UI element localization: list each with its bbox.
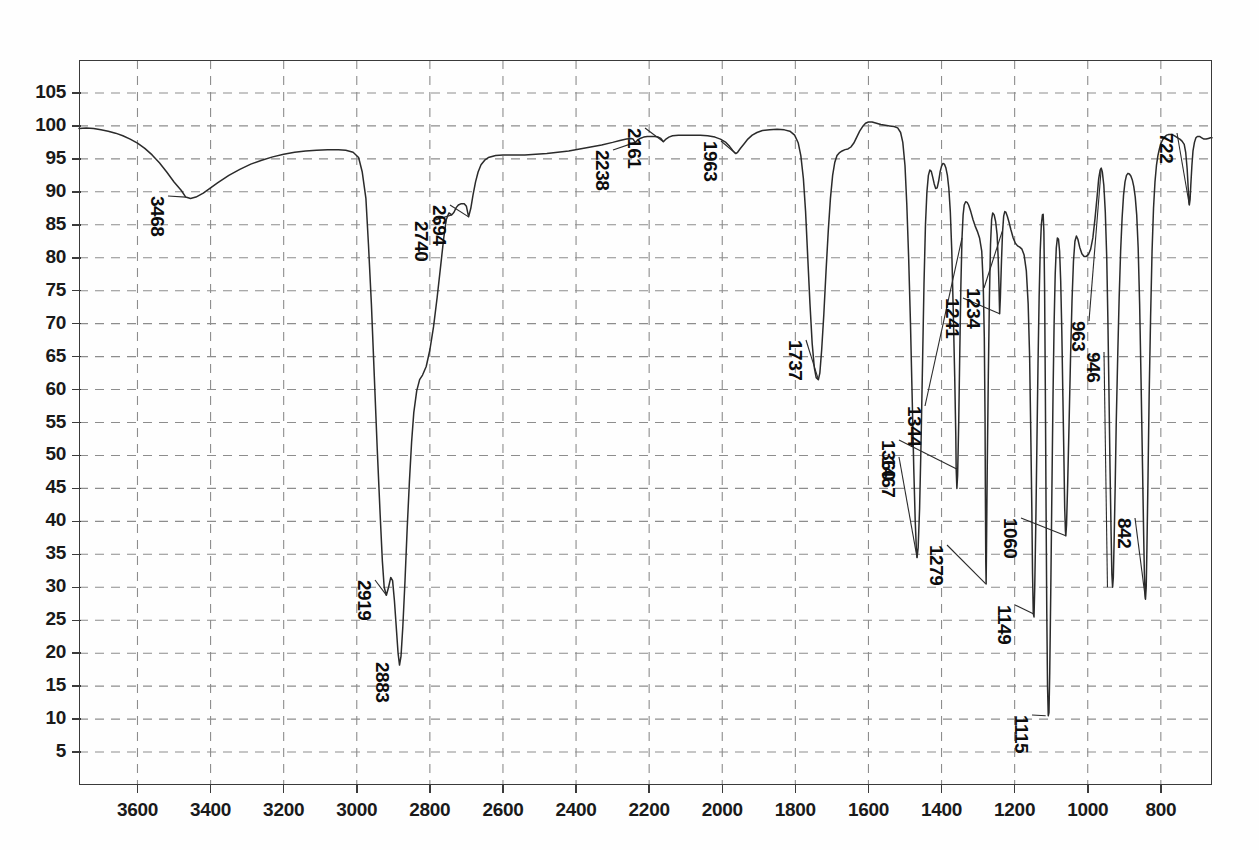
x-tick-3400: 3400: [171, 799, 251, 821]
ir-spectrum-figure: 5101520253035404550556065707580859095100…: [0, 0, 1259, 850]
y-tickmark: [72, 125, 81, 127]
y-tickmark: [72, 455, 81, 457]
peak-label-1234: 1234: [962, 288, 984, 328]
y-tick-90: 90: [8, 180, 66, 202]
y-tickmark: [72, 290, 81, 292]
x-tickmark: [502, 784, 504, 793]
peak-label-1060: 1060: [999, 518, 1021, 558]
x-tickmark: [283, 784, 285, 793]
y-tick-50: 50: [8, 443, 66, 465]
peak-label-1115: 1115: [1010, 715, 1032, 753]
x-tickmark: [868, 784, 870, 793]
y-tick-95: 95: [8, 147, 66, 169]
x-tickmark: [648, 784, 650, 793]
peak-label-2919: 2919: [353, 580, 375, 620]
x-tick-2000: 2000: [682, 799, 762, 821]
y-tickmark: [72, 257, 81, 259]
peak-label-2883: 2883: [371, 662, 393, 702]
x-tickmark: [722, 784, 724, 793]
y-tick-65: 65: [8, 345, 66, 367]
y-tick-70: 70: [8, 312, 66, 334]
peak-label-2694: 2694: [428, 205, 450, 245]
peak-label-1241: 1241: [941, 298, 963, 338]
y-tickmark: [72, 356, 81, 358]
y-tickmark: [72, 685, 81, 687]
x-tickmark: [137, 784, 139, 793]
x-tickmark: [795, 784, 797, 793]
x-tick-3200: 3200: [244, 799, 324, 821]
y-tickmark: [72, 751, 81, 753]
peak-label-722: 722: [1155, 133, 1177, 163]
x-tickmark: [356, 784, 358, 793]
y-tickmark: [72, 92, 81, 94]
peak-label-3468: 3468: [146, 196, 168, 236]
y-tick-30: 30: [8, 575, 66, 597]
y-tick-85: 85: [8, 213, 66, 235]
x-tick-1600: 1600: [828, 799, 908, 821]
x-tickmark: [941, 784, 943, 793]
y-tick-105: 105: [8, 81, 66, 103]
peak-label-2238: 2238: [591, 150, 613, 190]
x-tickmark: [1087, 784, 1089, 793]
y-tickmark: [72, 488, 81, 490]
y-tickmark: [72, 554, 81, 556]
y-tickmark: [72, 191, 81, 193]
y-tickmark: [72, 389, 81, 391]
y-tickmark: [72, 620, 81, 622]
x-tick-3000: 3000: [317, 799, 397, 821]
peak-label-1963: 1963: [699, 141, 721, 181]
y-tick-15: 15: [8, 674, 66, 696]
peak-label-1279: 1279: [925, 545, 947, 585]
peak-label-963: 963: [1067, 321, 1089, 351]
x-tick-2800: 2800: [390, 799, 470, 821]
y-tick-75: 75: [8, 279, 66, 301]
y-tickmark: [72, 521, 81, 523]
y-tickmark: [72, 652, 81, 654]
peak-label-1149: 1149: [993, 605, 1015, 644]
y-tick-60: 60: [8, 378, 66, 400]
y-tickmark: [72, 323, 81, 325]
peak-label-946: 946: [1082, 352, 1104, 382]
x-tick-2200: 2200: [609, 799, 689, 821]
y-tick-80: 80: [8, 246, 66, 268]
y-tickmark: [72, 422, 81, 424]
peak-label-1737: 1737: [784, 340, 806, 380]
y-tick-55: 55: [8, 411, 66, 433]
y-tickmark: [72, 158, 81, 160]
peak-label-1360: 1360: [877, 440, 899, 480]
x-tickmark: [210, 784, 212, 793]
x-tick-800: 800: [1121, 799, 1201, 821]
y-tick-40: 40: [8, 509, 66, 531]
x-tick-3600: 3600: [97, 799, 177, 821]
x-tickmark: [1160, 784, 1162, 793]
y-tickmark: [72, 224, 81, 226]
x-tick-1800: 1800: [755, 799, 835, 821]
x-tick-2600: 2600: [463, 799, 543, 821]
y-tickmark: [72, 718, 81, 720]
y-tick-5: 5: [8, 740, 66, 762]
plot-frame: [79, 60, 1212, 785]
x-tickmark: [429, 784, 431, 793]
x-tick-1400: 1400: [902, 799, 982, 821]
x-tick-2400: 2400: [536, 799, 616, 821]
y-tickmark: [72, 587, 81, 589]
plot-area: [79, 60, 1212, 785]
y-tick-10: 10: [8, 707, 66, 729]
peak-label-842: 842: [1113, 518, 1135, 548]
x-tick-1200: 1200: [975, 799, 1055, 821]
y-tick-25: 25: [8, 608, 66, 630]
x-tick-1000: 1000: [1048, 799, 1128, 821]
y-tick-20: 20: [8, 641, 66, 663]
peak-label-1344: 1344: [903, 406, 925, 446]
peak-label-2161: 2161: [623, 128, 645, 168]
y-tick-45: 45: [8, 476, 66, 498]
y-tick-100: 100: [8, 114, 66, 136]
y-tick-35: 35: [8, 542, 66, 564]
x-tickmark: [575, 784, 577, 793]
x-tickmark: [1014, 784, 1016, 793]
